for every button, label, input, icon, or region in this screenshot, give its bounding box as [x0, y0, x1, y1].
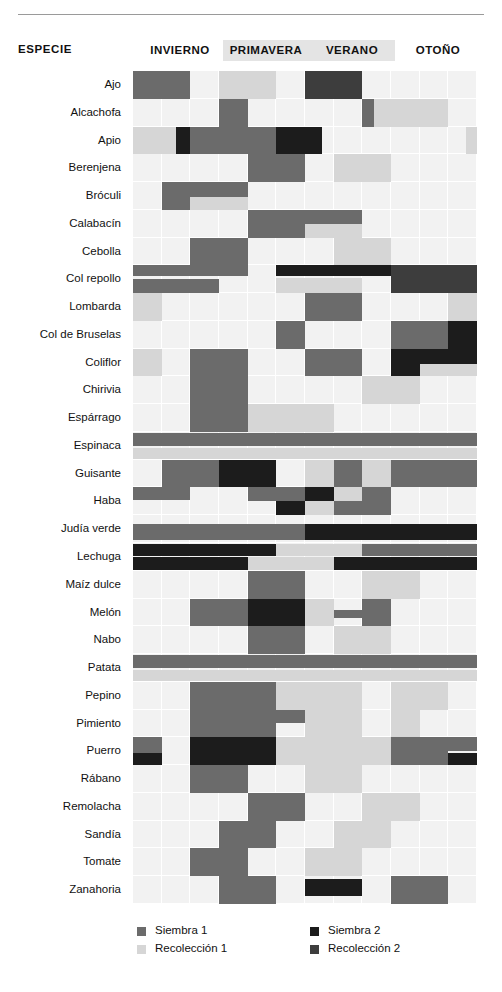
calendar-mark-siembra1[interactable]: [190, 848, 247, 876]
calendar-cell[interactable]: [362, 404, 391, 432]
calendar-mark-recoleccion1[interactable]: [362, 460, 391, 488]
calendar-cell[interactable]: [420, 404, 449, 432]
calendar-mark-siembra1[interactable]: [248, 154, 305, 182]
calendar-cell[interactable]: [420, 127, 449, 155]
calendar-cell[interactable]: [448, 626, 477, 654]
calendar-mark-siembra2[interactable]: [219, 460, 276, 488]
calendar-cell[interactable]: [420, 487, 449, 515]
calendar-mark-siembra2[interactable]: [276, 127, 322, 155]
calendar-mark-recoleccion2[interactable]: [391, 265, 477, 293]
calendar-cell[interactable]: [420, 571, 449, 599]
calendar-mark-recoleccion1[interactable]: [334, 487, 363, 501]
calendar-mark-recoleccion1[interactable]: [276, 278, 362, 294]
calendar-cell[interactable]: [219, 571, 248, 599]
calendar-cell[interactable]: [162, 238, 191, 266]
calendar-mark-recoleccion1[interactable]: [276, 682, 362, 710]
calendar-cell[interactable]: [190, 821, 219, 849]
calendar-cell[interactable]: [190, 571, 219, 599]
calendar-cell[interactable]: [334, 793, 363, 821]
calendar-cell[interactable]: [448, 154, 477, 182]
calendar-cell[interactable]: [162, 626, 191, 654]
calendar-mark-recoleccion1[interactable]: [133, 670, 477, 681]
calendar-cell[interactable]: [391, 821, 420, 849]
calendar-mark-recoleccion1[interactable]: [305, 501, 334, 515]
calendar-cell[interactable]: [334, 127, 363, 155]
calendar-mark-siembra1[interactable]: [219, 821, 276, 849]
calendar-mark-siembra1[interactable]: [391, 737, 448, 765]
calendar-cell[interactable]: [391, 182, 420, 210]
calendar-cell[interactable]: [305, 376, 334, 404]
calendar-cell[interactable]: [248, 238, 277, 266]
calendar-cell[interactable]: [391, 154, 420, 182]
calendar-cell[interactable]: [190, 293, 219, 321]
calendar-cell[interactable]: [190, 154, 219, 182]
calendar-cell[interactable]: [420, 154, 449, 182]
calendar-cell[interactable]: [162, 876, 191, 904]
calendar-cell[interactable]: [362, 182, 391, 210]
calendar-cell[interactable]: [162, 571, 191, 599]
calendar-mark-recoleccion1[interactable]: [362, 571, 419, 599]
calendar-mark-siembra2[interactable]: [305, 879, 362, 896]
calendar-cell[interactable]: [362, 210, 391, 238]
calendar-mark-recoleccion1[interactable]: [305, 848, 362, 876]
calendar-mark-siembra1[interactable]: [334, 460, 363, 488]
calendar-cell[interactable]: [334, 404, 363, 432]
calendar-cell[interactable]: [162, 321, 191, 349]
calendar-cell[interactable]: [248, 182, 277, 210]
calendar-mark-siembra1[interactable]: [248, 487, 305, 501]
calendar-mark-siembra2[interactable]: [276, 501, 305, 515]
calendar-cell[interactable]: [448, 599, 477, 627]
calendar-cell[interactable]: [305, 238, 334, 266]
calendar-cell[interactable]: [133, 876, 162, 904]
calendar-mark-recoleccion1[interactable]: [133, 293, 162, 321]
calendar-cell[interactable]: [391, 404, 420, 432]
calendar-cell[interactable]: [448, 793, 477, 821]
calendar-cell[interactable]: [190, 321, 219, 349]
calendar-mark-siembra1[interactable]: [133, 265, 248, 276]
calendar-mark-recoleccion1[interactable]: [334, 154, 391, 182]
calendar-cell[interactable]: [334, 99, 363, 127]
calendar-cell[interactable]: [276, 821, 305, 849]
calendar-mark-siembra2[interactable]: [448, 753, 477, 765]
calendar-cell[interactable]: [420, 376, 449, 404]
calendar-mark-recoleccion1[interactable]: [391, 682, 448, 710]
calendar-cell[interactable]: [391, 487, 420, 515]
calendar-mark-recoleccion2[interactable]: [305, 71, 362, 99]
calendar-cell[interactable]: [420, 765, 449, 793]
calendar-mark-siembra1[interactable]: [362, 487, 391, 515]
calendar-cell[interactable]: [420, 599, 449, 627]
calendar-cell[interactable]: [420, 848, 449, 876]
calendar-cell[interactable]: [448, 821, 477, 849]
calendar-cell[interactable]: [133, 599, 162, 627]
calendar-mark-siembra1[interactable]: [276, 710, 305, 724]
calendar-mark-siembra2[interactable]: [448, 321, 477, 349]
calendar-cell[interactable]: [305, 99, 334, 127]
calendar-cell[interactable]: [362, 321, 391, 349]
calendar-cell[interactable]: [133, 765, 162, 793]
calendar-mark-siembra1[interactable]: [190, 404, 247, 432]
calendar-mark-recoleccion1[interactable]: [334, 238, 391, 266]
calendar-cell[interactable]: [162, 599, 191, 627]
calendar-cell[interactable]: [420, 821, 449, 849]
calendar-mark-recoleccion1[interactable]: [305, 224, 362, 237]
calendar-cell[interactable]: [248, 99, 277, 127]
calendar-cell[interactable]: [391, 765, 420, 793]
calendar-cell[interactable]: [420, 182, 449, 210]
calendar-cell[interactable]: [448, 376, 477, 404]
calendar-mark-siembra1[interactable]: [190, 599, 247, 627]
calendar-mark-recoleccion1[interactable]: [133, 127, 176, 155]
calendar-mark-siembra1[interactable]: [133, 487, 190, 499]
calendar-mark-siembra2[interactable]: [176, 127, 190, 155]
calendar-cell[interactable]: [420, 626, 449, 654]
calendar-cell[interactable]: [190, 876, 219, 904]
calendar-cell[interactable]: [448, 99, 477, 127]
calendar-cell[interactable]: [334, 182, 363, 210]
calendar-cell[interactable]: [162, 349, 191, 377]
calendar-cell[interactable]: [190, 71, 219, 99]
calendar-cell[interactable]: [305, 321, 334, 349]
calendar-cell[interactable]: [248, 265, 277, 293]
calendar-cell[interactable]: [162, 821, 191, 849]
calendar-mark-siembra2[interactable]: [133, 557, 248, 569]
calendar-cell[interactable]: [162, 682, 191, 710]
calendar-cell[interactable]: [362, 682, 391, 710]
